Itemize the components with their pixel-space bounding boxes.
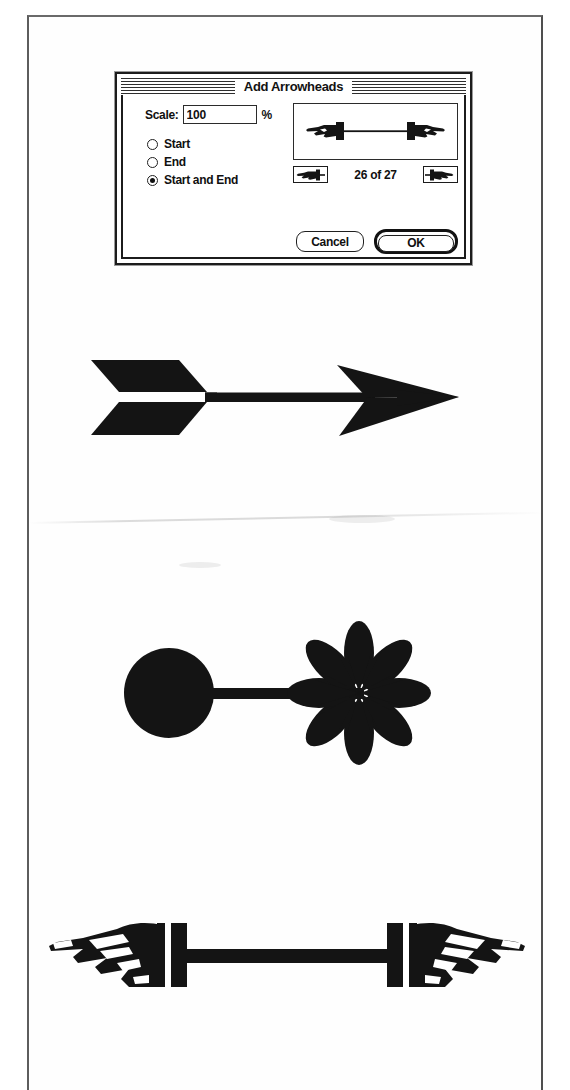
arrowhead-preview-box bbox=[293, 103, 458, 160]
feathered-arrow-illustration bbox=[67, 340, 507, 460]
previous-arrowhead-icon bbox=[294, 168, 326, 182]
arrowhead-placement-radio-group: Start End Start and End bbox=[147, 135, 238, 189]
scan-speck bbox=[179, 562, 221, 568]
scan-crease-artifact bbox=[29, 512, 545, 524]
radio-option-start[interactable]: Start bbox=[147, 135, 238, 153]
radio-label: Start bbox=[164, 137, 190, 151]
scale-row: Scale: % bbox=[145, 105, 272, 124]
radio-icon bbox=[147, 139, 158, 150]
sample-feathered-arrow bbox=[29, 340, 545, 460]
add-arrowheads-dialog: Add Arrowheads Scale: % Start End bbox=[115, 72, 472, 265]
previous-arrowhead-button[interactable] bbox=[293, 166, 328, 183]
sample-pointing-hands bbox=[29, 897, 545, 1007]
dialog-body: Scale: % Start End Start and End bbox=[123, 97, 464, 257]
circle-starburst-illustration bbox=[107, 605, 467, 770]
scanned-page: Add Arrowheads Scale: % Start End bbox=[27, 15, 543, 1090]
scale-input[interactable] bbox=[183, 105, 257, 124]
radio-label: Start and End bbox=[164, 173, 238, 187]
radio-option-start-and-end[interactable]: Start and End bbox=[147, 171, 238, 189]
next-arrowhead-icon bbox=[424, 168, 456, 182]
radio-icon-selected bbox=[147, 175, 158, 186]
radio-option-end[interactable]: End bbox=[147, 153, 238, 171]
dialog-title: Add Arrowheads bbox=[235, 79, 352, 94]
scale-label: Scale: bbox=[145, 108, 179, 122]
default-button-ring: OK bbox=[374, 229, 458, 254]
radio-icon bbox=[147, 157, 158, 168]
pointing-hands-illustration bbox=[37, 897, 537, 1007]
double-hand-arrowhead-preview-icon bbox=[294, 104, 457, 159]
dialog-action-row: Cancel OK bbox=[296, 229, 458, 254]
scale-unit-label: % bbox=[262, 108, 273, 122]
sample-circle-and-starburst bbox=[29, 605, 545, 770]
dialog-title-bar[interactable]: Add Arrowheads bbox=[121, 78, 466, 95]
next-arrowhead-button[interactable] bbox=[423, 166, 458, 183]
cancel-button[interactable]: Cancel bbox=[296, 231, 364, 252]
arrowhead-navigation-row: 26 of 27 bbox=[293, 165, 458, 184]
radio-label: End bbox=[164, 155, 186, 169]
arrowhead-counter: 26 of 27 bbox=[354, 168, 396, 182]
ok-button[interactable]: OK bbox=[378, 235, 454, 252]
scan-speck bbox=[329, 515, 395, 523]
